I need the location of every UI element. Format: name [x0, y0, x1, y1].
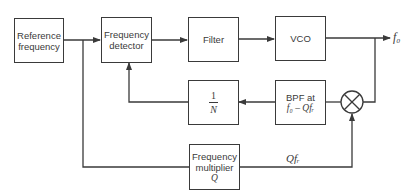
- mixer-icon: [341, 91, 363, 113]
- fraction-bar: [209, 102, 218, 103]
- block-label: Reference: [17, 30, 61, 41]
- block-label: detector: [109, 40, 143, 51]
- block-label: multiplier: [195, 162, 233, 173]
- one-over-n-fraction: 1 N: [209, 90, 218, 115]
- fraction-denominator: N: [210, 104, 217, 115]
- frequency-detector-block: Frequency detector: [101, 17, 152, 63]
- vco-block: VCO: [275, 16, 326, 61]
- pll-block-diagram: Reference frequency Frequency detector F…: [0, 0, 418, 196]
- block-label: Frequency: [192, 151, 237, 162]
- block-label: Frequency: [104, 29, 149, 40]
- block-label: f₀ – Qfᵣ: [287, 103, 314, 114]
- block-label: Filter: [203, 34, 224, 45]
- bandpass-filter-block: BPF at f₀ – Qfᵣ: [275, 80, 326, 125]
- fraction-numerator: 1: [211, 90, 216, 101]
- filter-block: Filter: [188, 17, 239, 62]
- block-label: VCO: [290, 33, 311, 44]
- output-frequency-label: f₀: [393, 30, 401, 45]
- block-label: Q: [211, 173, 218, 184]
- frequency-multiplier-block: Frequency multiplier Q: [189, 144, 240, 190]
- divider-block: 1 N: [188, 80, 239, 125]
- block-label: BPF at: [286, 92, 315, 103]
- reference-frequency-block: Reference frequency: [14, 18, 64, 63]
- block-label: frequency: [18, 41, 60, 52]
- multiplier-output-label: Qfᵣ: [286, 152, 300, 164]
